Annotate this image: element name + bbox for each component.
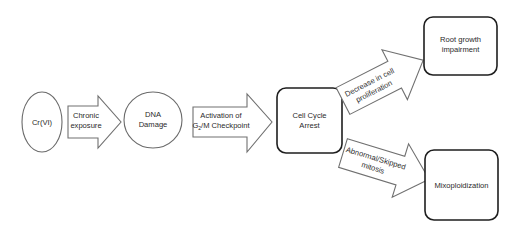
node-dna-damage: DNA Damage [124, 92, 182, 148]
node-label-line2: Damage [139, 120, 168, 129]
node-cell-cycle-arrest: Cell Cycle Arrest [277, 88, 342, 153]
node-label: Cr(VI) [32, 118, 53, 127]
node-label-line2: impairment [442, 45, 480, 54]
node-label-line1: Cell Cycle [292, 111, 326, 120]
arrow-label-line2: G2/M Checkpoint [192, 121, 250, 131]
arrow-label-line1: Activation of [200, 111, 242, 120]
flowchart-canvas: Cr(VI) Chronic exposure DNA Damage Activ… [0, 0, 520, 230]
node-label: Mixoploidization [434, 181, 488, 190]
arrow-label-line2: exposure [70, 121, 101, 130]
arrow-abnormal-mitosis: Abnormal/Skipped mitosis [335, 126, 437, 206]
arrow-decrease-proliferation: Decrease in cell proliferation [330, 35, 436, 126]
arrow-activation-checkpoint: Activation of G2/M Checkpoint [192, 94, 272, 152]
node-label-line1: DNA [145, 110, 162, 119]
arrow-chronic-exposure: Chronic exposure [68, 96, 121, 148]
arrow-label-line1: Chronic [73, 111, 99, 120]
node-label-line1: Root growth [440, 35, 481, 44]
node-crvi: Cr(VI) [22, 92, 62, 152]
node-mixoploidization: Mixoploidization [425, 150, 498, 220]
node-root-growth-impairment: Root growth impairment [424, 17, 497, 75]
node-label-line2: Arrest [299, 121, 320, 130]
